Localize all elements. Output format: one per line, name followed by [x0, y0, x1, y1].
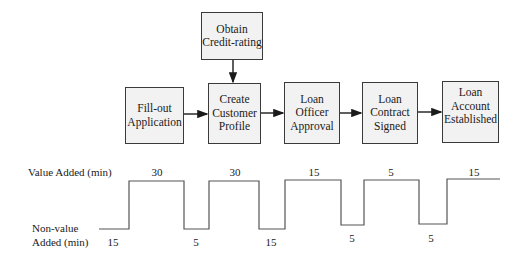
box-create-customer-profile: Create Customer Profile	[208, 83, 261, 144]
value-added-1: 30	[152, 166, 163, 178]
box-label: Create Customer Profile	[212, 93, 257, 134]
box-label: Loan Contract Signed	[370, 93, 410, 134]
box-obtain-credit-rating: Obtain Credit-rating	[201, 12, 263, 60]
value-added-3: 15	[309, 166, 320, 178]
non-value-added-2: 5	[193, 236, 199, 248]
non-value-label-line2: Added (min)	[32, 236, 89, 248]
box-loan-officer-approval: Loan Officer Approval	[284, 82, 340, 144]
value-added-5: 15	[469, 166, 480, 178]
non-value-added-4: 5	[349, 232, 355, 244]
non-value-added-5: 5	[428, 232, 434, 244]
box-loan-contract-signed: Loan Contract Signed	[362, 82, 418, 144]
box-label: Fill-out Application	[127, 102, 181, 129]
box-fill-out-application: Fill-out Application	[125, 87, 184, 144]
box-loan-account-established: Loan Account Established	[442, 81, 499, 143]
non-value-added-1: 15	[108, 236, 119, 248]
box-label: Obtain Credit-rating	[202, 23, 261, 50]
value-added-4: 5	[388, 166, 394, 178]
box-label: Loan Officer Approval	[290, 93, 333, 134]
value-added-2: 30	[230, 166, 241, 178]
box-label: Loan Account Established	[444, 86, 497, 127]
non-value-added-3: 15	[266, 236, 277, 248]
non-value-label-line1: Non-value	[32, 222, 78, 234]
value-stream-timeline	[99, 179, 500, 229]
value-added-label: Value Added (min)	[28, 166, 112, 178]
